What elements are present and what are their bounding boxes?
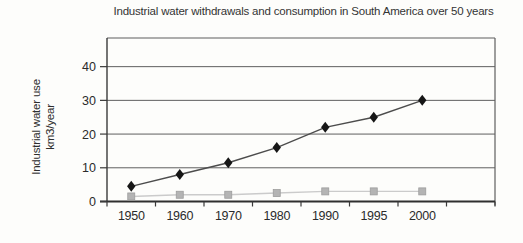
y-tick-label-40: 40 [82,60,96,74]
chart-plot: 0102030401950196019701980199019952000 [0,0,523,243]
data-point-square-1960 [176,191,183,198]
x-tick-label-1950: 1950 [118,209,145,223]
x-tick-label-1990: 1990 [312,209,339,223]
data-point-diamond-2000 [418,95,426,106]
chart-figure: Industrial water withdrawals and consump… [0,0,523,243]
x-tick-label-2000: 2000 [409,209,436,223]
data-point-diamond-1990 [321,122,329,133]
data-point-square-1950 [128,193,135,200]
data-point-square-2000 [419,188,426,195]
x-tick-label-1995: 1995 [360,209,387,223]
data-point-square-1970 [225,191,232,198]
y-tick-label-20: 20 [82,128,96,142]
data-point-diamond-1980 [273,142,281,153]
data-point-diamond-1950 [127,181,135,192]
x-tick-label-1970: 1970 [215,209,242,223]
y-tick-label-30: 30 [82,94,96,108]
data-point-diamond-1960 [176,169,184,180]
data-point-square-1995 [370,188,377,195]
y-tick-label-0: 0 [89,195,96,209]
x-tick-label-1960: 1960 [166,209,193,223]
data-point-diamond-1970 [224,157,232,168]
x-tick-label-1980: 1980 [263,209,290,223]
data-point-square-1980 [273,190,280,197]
data-point-square-1990 [322,188,329,195]
y-tick-label-10: 10 [82,161,96,175]
data-point-diamond-1995 [370,112,378,123]
